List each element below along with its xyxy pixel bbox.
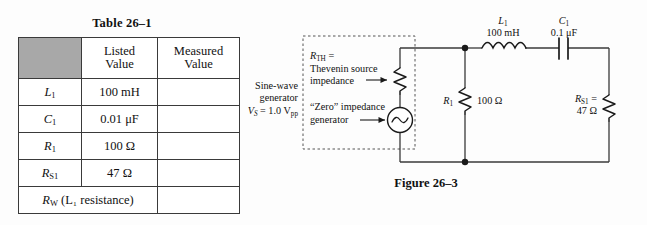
table-row: RS1 47 Ω: [19, 160, 240, 187]
inductor-icon: [482, 43, 526, 49]
measured-value-rw[interactable]: [158, 187, 240, 214]
page-root: Table 26–1 Listed Value Measured Value L…: [0, 0, 647, 225]
listed-value-line2: Value: [105, 57, 133, 71]
table-row: L1 100 mH: [19, 79, 240, 106]
table-panel: Table 26–1 Listed Value Measured Value L…: [0, 0, 250, 225]
table-row: C1 0.01 μF: [19, 106, 240, 133]
generator-voltage-label: VS = 1.0 Vpp: [248, 105, 299, 118]
measured-value-line2: Value: [184, 57, 212, 71]
zero-impedance-line2: generator: [310, 114, 349, 125]
rw-description: (L₁ resistance): [58, 193, 134, 207]
figure-caption: Figure 26–3: [336, 176, 516, 191]
table-row: RW (L₁ resistance): [19, 187, 240, 214]
voltage-value: = 1.0 V: [258, 105, 292, 116]
listed-value-line1: Listed: [104, 44, 135, 58]
generator-label-line1: Sine-wave: [255, 80, 298, 91]
measured-value-line1: Measured: [174, 44, 223, 58]
thevenin-equals: =: [326, 50, 335, 61]
r1-name-label: R1: [442, 95, 453, 108]
component-values-table: Listed Value Measured Value L1 100 mH C1…: [18, 37, 240, 214]
figure-panel: Sine-wave generator VS = 1.0 Vpp RTH = T…: [246, 0, 647, 225]
junction-dot-bottom: [462, 159, 468, 165]
listed-value-c1: 0.01 μF: [82, 106, 158, 133]
capacitor-value-label: 0.1 μF: [551, 27, 578, 38]
symbol-subscript: 1: [52, 116, 56, 126]
resistor-icon: [459, 88, 471, 114]
symbol-letter: C: [44, 112, 52, 126]
listed-value-l1: 100 mH: [82, 79, 158, 106]
measured-value-l1[interactable]: [158, 79, 240, 106]
rs1-value-label: 47 Ω: [577, 105, 598, 116]
symbol-subscript: 1: [52, 143, 56, 153]
voltage-unit-subscript: pp: [291, 110, 299, 118]
table-corner-cell: [19, 38, 82, 79]
row-symbol-l1: L1: [19, 79, 82, 106]
rs1-equals: =: [589, 93, 598, 104]
listed-value-r1: 100 Ω: [82, 133, 158, 160]
table-header-row: Listed Value Measured Value: [19, 38, 240, 79]
generator-label-line2: generator: [260, 92, 299, 103]
circuit-diagram: Sine-wave generator VS = 1.0 Vpp RTH = T…: [246, 0, 647, 200]
row-symbol-rw: RW (L₁ resistance): [19, 187, 158, 214]
symbol-subscript: 1: [51, 89, 55, 99]
column-header-measured-value: Measured Value: [158, 38, 240, 79]
symbol-letter: R: [44, 139, 52, 153]
measured-value-rs1[interactable]: [158, 160, 240, 187]
symbol-subscript: S1: [49, 170, 58, 180]
row-symbol-c1: C1: [19, 106, 82, 133]
inductor-value-label: 100 mH: [486, 27, 520, 38]
resistor-icon: [603, 95, 615, 121]
row-symbol-r1: R1: [19, 133, 82, 160]
symbol-subscript: W: [50, 197, 58, 207]
listed-value-rs1: 47 Ω: [82, 160, 158, 187]
table-caption: Table 26–1: [0, 16, 244, 31]
table-row: R1 100 Ω: [19, 133, 240, 160]
column-header-listed-value: Listed Value: [82, 38, 158, 79]
arrow-head-zero-impedance: [379, 117, 386, 123]
thevenin-label: RTH =: [309, 50, 334, 63]
measured-value-c1[interactable]: [158, 106, 240, 133]
r1-value-label: 100 Ω: [477, 95, 503, 106]
resistor-icon: [394, 68, 406, 94]
thevenin-desc-line1: Thevenin source: [310, 63, 378, 74]
arrow-head-thevenin: [381, 77, 388, 83]
zero-impedance-line1: “Zero” impedance: [310, 101, 385, 112]
row-symbol-rs1: RS1: [19, 160, 82, 187]
junction-dot-top: [462, 45, 468, 51]
measured-value-r1[interactable]: [158, 133, 240, 160]
r1-subscript: 1: [449, 100, 453, 108]
thevenin-desc-line2: impedance: [310, 75, 355, 86]
symbol-letter: R: [42, 193, 50, 207]
